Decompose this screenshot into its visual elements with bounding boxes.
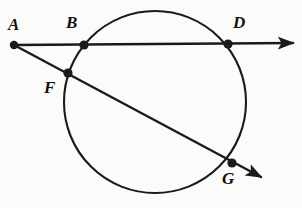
point-dot-f <box>63 68 72 77</box>
point-dot-a <box>10 41 18 49</box>
diagram-canvas <box>0 0 302 208</box>
ray-afg <box>14 45 261 177</box>
point-dot-d <box>223 39 232 48</box>
point-label-b: B <box>66 14 77 31</box>
point-dot-b <box>79 40 88 49</box>
point-dot-g <box>227 158 236 167</box>
point-label-d: D <box>233 14 245 31</box>
circle <box>64 11 246 193</box>
ray-abd <box>14 43 293 45</box>
geometry-figure: A B D F G <box>0 0 302 208</box>
point-label-g: G <box>222 170 234 187</box>
point-label-a: A <box>8 16 19 33</box>
point-label-f: F <box>44 79 55 96</box>
